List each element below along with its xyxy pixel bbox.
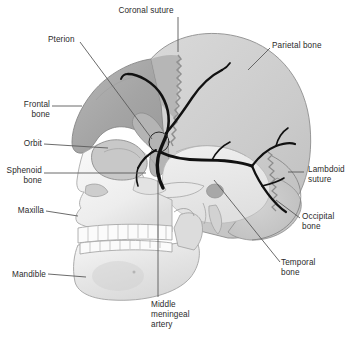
label-temporal-bone: Temporal bone — [281, 258, 331, 278]
orbit-cavity — [92, 140, 148, 180]
label-occipital-bone: Occipital bone — [302, 212, 348, 232]
label-orbit: Orbit — [0, 139, 42, 149]
label-lambdoid-suture: Lambdoid suture — [308, 165, 351, 185]
external-acoustic-meatus — [207, 184, 224, 198]
label-sphenoid-bone: Sphenoid bone — [0, 166, 42, 186]
leader-maxilla — [46, 211, 78, 216]
label-pterion: Pterion — [48, 35, 108, 45]
skull-diagram: Coronal suture Pterion Parietal bone Fro… — [0, 0, 351, 340]
label-parietal-bone: Parietal bone — [272, 41, 348, 51]
label-frontal-bone: Frontal bone — [0, 100, 50, 120]
label-mandible: Mandible — [0, 270, 46, 280]
mandibular-ramus — [174, 213, 203, 250]
label-middle-meningeal-artery: Middle meningeal artery — [151, 300, 209, 331]
label-maxilla: Maxilla — [0, 206, 44, 216]
label-coronal-suture: Coronal suture — [106, 6, 186, 16]
